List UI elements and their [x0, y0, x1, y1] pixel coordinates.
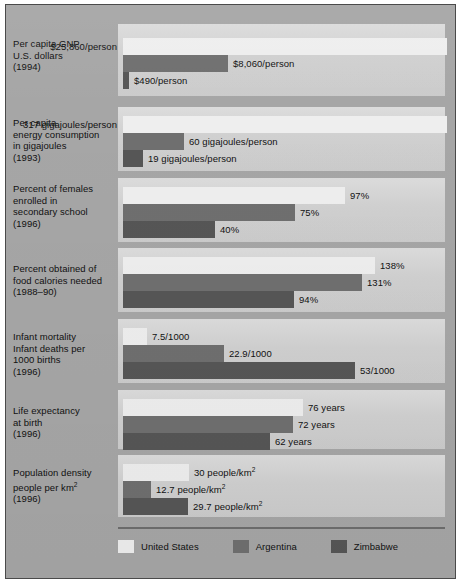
- bar-value-label: 40%: [220, 221, 239, 238]
- bar-arg[interactable]: [123, 345, 224, 362]
- bar-value-label: 7.5/1000: [152, 328, 189, 345]
- row-label: Life expectancyat birth(1996): [13, 405, 117, 440]
- bar-zim[interactable]: [123, 150, 143, 167]
- row-label-line: in gigajoules: [13, 140, 117, 152]
- bar-value-label: 62 years: [275, 433, 312, 450]
- bar-arg[interactable]: [123, 274, 362, 291]
- bar-us[interactable]: [123, 187, 345, 204]
- row-label-line: secondary school: [13, 206, 117, 218]
- bar-value-label: 60 gigajoules/person: [189, 133, 278, 150]
- row-panel: 76 years72 years62 years: [118, 390, 445, 449]
- legend-swatch-icon: [233, 540, 249, 553]
- row-label-line: (1996): [13, 366, 117, 378]
- bar-value-label: 94%: [299, 291, 318, 308]
- bar-us[interactable]: [123, 38, 447, 55]
- bar-zim[interactable]: [123, 221, 215, 238]
- row-label-line: Life expectancy: [13, 405, 117, 417]
- row-label: Infant mortalityInfant deaths per1000 bi…: [13, 331, 117, 377]
- row-label-line: at birth: [13, 417, 117, 429]
- row-panel: 138%131%94%: [118, 248, 445, 312]
- bar-value-label: 53/1000: [360, 362, 395, 379]
- legend-label: Argentina: [256, 541, 297, 552]
- bar-arg[interactable]: [123, 55, 228, 72]
- bar-arg[interactable]: [123, 416, 293, 433]
- bar-us[interactable]: [123, 399, 303, 416]
- legend-swatch-icon: [331, 540, 347, 553]
- chart-rows-container: Per capita GNPU.S. dollars(1994)$25,860/…: [6, 5, 455, 578]
- bar-us[interactable]: [123, 464, 189, 481]
- bar-zim[interactable]: [123, 362, 355, 379]
- bar-value-label: 75%: [300, 204, 319, 221]
- row-label-line: (1988–90): [13, 286, 117, 298]
- row-label-line: (1996): [13, 428, 117, 440]
- legend-label: Zimbabwe: [354, 541, 398, 552]
- bar-value-label: 97%: [350, 187, 369, 204]
- legend-items: United StatesArgentinaZimbabwe: [118, 540, 432, 553]
- bar-value-label: 19 gigajoules/person: [148, 150, 237, 167]
- row-label: Percent of femalesenrolled insecondary s…: [13, 183, 117, 229]
- bar-value-label: 72 years: [298, 416, 335, 433]
- row-panel: $25,860/person$8,060/person$490/person: [118, 24, 445, 96]
- row-label-line: (1996): [13, 218, 117, 230]
- bar-us[interactable]: [123, 257, 375, 274]
- bar-value-label: 138%: [380, 257, 405, 274]
- bar-value-label: 29.7 people/km2: [193, 498, 262, 515]
- row-label-line: Percent of females: [13, 183, 117, 195]
- row-label-line: (1996): [13, 493, 117, 505]
- row-label-line: people per km2: [13, 479, 117, 494]
- bar-arg[interactable]: [123, 481, 151, 498]
- row-label-line: (1994): [13, 61, 117, 73]
- bar-value-label: 317 gigajoules/person: [23, 116, 117, 133]
- bar-zim[interactable]: [123, 498, 188, 515]
- comparative-development-indicators-figure: Per capita GNPU.S. dollars(1994)$25,860/…: [0, 0, 461, 583]
- row-label: Population densitypeople per km2(1996): [13, 467, 117, 505]
- legend-item-zimbabwe[interactable]: Zimbabwe: [331, 540, 398, 553]
- row-label-line: Infant mortality: [13, 331, 117, 343]
- bar-zim[interactable]: [123, 72, 129, 89]
- bar-value-label: $25,860/person: [50, 38, 117, 55]
- row-label-line: food calories needed: [13, 275, 117, 287]
- legend-label: United States: [141, 541, 199, 552]
- legend-swatch-icon: [118, 540, 134, 553]
- row-label-line: 1000 births: [13, 354, 117, 366]
- bar-value-label: $8,060/person: [233, 55, 294, 72]
- row-panel: 97%75%40%: [118, 178, 445, 242]
- row-panel: 7.5/100022.9/100053/1000: [118, 319, 445, 383]
- legend-item-united-states[interactable]: United States: [118, 540, 199, 553]
- bar-value-label: 22.9/1000: [229, 345, 272, 362]
- row-label-line: Percent obtained of: [13, 263, 117, 275]
- bar-zim[interactable]: [123, 433, 270, 450]
- bar-value-label: 30 people/km2: [194, 464, 255, 481]
- row-label-line: enrolled in: [13, 195, 117, 207]
- chart-legend: United StatesArgentinaZimbabwe: [118, 526, 445, 572]
- bar-value-label: 76 years: [308, 399, 345, 416]
- row-label-line: Population density: [13, 467, 117, 479]
- row-label-line: Infant deaths per: [13, 343, 117, 355]
- row-panel: 317 gigajoules/person60 gigajoules/perso…: [118, 107, 445, 171]
- legend-item-argentina[interactable]: Argentina: [233, 540, 297, 553]
- row-label: Percent obtained offood calories needed(…: [13, 263, 117, 298]
- bar-zim[interactable]: [123, 291, 294, 308]
- row-label-line: (1993): [13, 152, 117, 164]
- bar-value-label: 131%: [367, 274, 392, 291]
- bar-arg[interactable]: [123, 133, 184, 150]
- row-panel: 30 people/km212.7 people/km229.7 people/…: [118, 455, 445, 517]
- bar-arg[interactable]: [123, 204, 295, 221]
- bar-us[interactable]: [123, 328, 147, 345]
- chart-plate: Per capita GNPU.S. dollars(1994)$25,860/…: [5, 4, 456, 579]
- bar-value-label: 12.7 people/km2: [156, 481, 225, 498]
- bar-us[interactable]: [123, 116, 447, 133]
- bar-value-label: $490/person: [134, 72, 187, 89]
